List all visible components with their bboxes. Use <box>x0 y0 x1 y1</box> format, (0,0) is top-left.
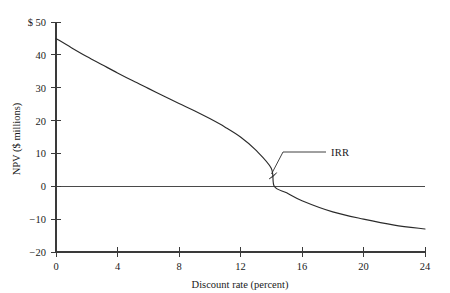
x-tick-label-0: 0 <box>53 261 58 272</box>
y-tick-label-neg20: −20 <box>30 247 46 258</box>
chart-background <box>0 0 450 293</box>
y-tick-label-0: 0 <box>41 181 46 192</box>
x-tick-label-24: 24 <box>420 261 431 272</box>
x-tick-label-4: 4 <box>115 261 121 272</box>
y-tick-label-10: 10 <box>36 148 47 159</box>
x-tick-label-8: 8 <box>176 261 181 272</box>
y-tick-label-neg10: −10 <box>30 214 46 225</box>
y-tick-label-30: 30 <box>36 83 47 94</box>
x-tick-label-20: 20 <box>358 261 369 272</box>
y-axis-title: NPV ($ millions) <box>11 102 23 175</box>
chart-canvas: $ 50 40 30 20 10 0 −10 −20 0 4 8 12 16 2… <box>0 0 450 293</box>
irr-label: IRR <box>331 147 349 158</box>
x-axis-title: Discount rate (percent) <box>192 279 289 291</box>
npv-profile-chart: $ 50 40 30 20 10 0 −10 −20 0 4 8 12 16 2… <box>0 0 450 293</box>
x-tick-label-12: 12 <box>235 261 246 272</box>
y-tick-label-40: 40 <box>36 50 47 61</box>
x-tick-label-16: 16 <box>297 261 308 272</box>
y-tick-label-20: 20 <box>36 116 47 127</box>
y-tick-label-50: $ 50 <box>28 17 46 28</box>
